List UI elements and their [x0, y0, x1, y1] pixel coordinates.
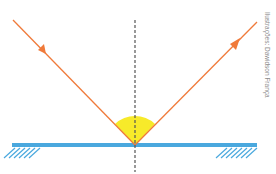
incident-arrow-icon: [38, 44, 46, 54]
illustration-credit: Ilustrações: Dawidson França: [262, 12, 274, 122]
incident-ray: [13, 20, 135, 145]
mirror-hatch-left: [4, 148, 40, 158]
credit-text: Ilustrações: Dawidson França: [264, 12, 271, 98]
mirror-hatch-right: [216, 148, 257, 158]
reflection-diagram: [0, 0, 276, 174]
